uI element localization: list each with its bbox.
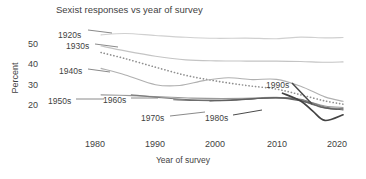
- series-label-1940s: 1940s: [59, 66, 82, 76]
- leader-line-1920s: [88, 30, 112, 33]
- series-line-1930s: [101, 46, 343, 62]
- series-label-1970s: 1970s: [141, 113, 164, 123]
- series-label-1960s: 1960s: [103, 95, 126, 105]
- leader-line-1930s: [95, 44, 118, 47]
- leader-line-1970s: [170, 112, 205, 116]
- series-label-1930s: 1930s: [66, 41, 89, 51]
- series-label-1990s: 1990s: [266, 80, 289, 90]
- leader-line-1980s: [233, 110, 262, 115]
- series-label-1950s: 1950s: [48, 96, 71, 106]
- chart-container: Sexist responses vs year of survey Perce…: [0, 0, 366, 179]
- series-label-1920s: 1920s: [58, 30, 81, 40]
- plot-area: [0, 0, 366, 179]
- series-line-1920s: [101, 33, 343, 38]
- series-label-1980s: 1980s: [205, 113, 228, 123]
